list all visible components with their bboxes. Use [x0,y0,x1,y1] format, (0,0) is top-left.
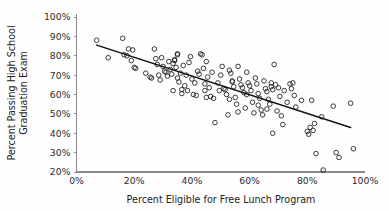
data-point [268,102,273,107]
data-point [159,55,164,60]
trend-line [97,45,351,127]
data-point [129,58,134,63]
data-point [280,122,285,127]
data-point [337,155,342,160]
data-point [278,94,283,99]
data-point [191,92,196,97]
data-point [237,77,242,82]
data-point [270,131,275,136]
data-point [205,75,210,80]
data-point [233,95,238,100]
y-tick-label: 40% [50,128,71,139]
y-tick-label: 30% [50,147,71,158]
data-point [167,59,172,64]
x-tick-label: 0% [69,175,84,186]
data-point [260,113,265,118]
data-point [185,88,190,93]
y-axis-title-line1: Percent Passing High School [6,25,17,160]
data-point [227,97,232,102]
data-point [249,88,254,93]
data-point [255,82,260,87]
data-point [288,82,293,87]
data-point [256,103,261,108]
data-point [311,128,316,133]
data-point [149,76,154,81]
y-axis-title-line2: Graduation Exam [18,51,29,135]
data-point [217,88,222,93]
data-point [210,70,215,75]
data-point [203,82,208,87]
data-point [152,47,157,52]
data-point [218,73,223,78]
y-tick-label: 50% [50,108,71,119]
data-point [130,48,135,53]
y-tick-label: 60% [50,89,71,100]
y-tick-label: 80% [50,50,71,61]
x-tick-label: 60% [239,175,260,186]
data-point [203,88,208,93]
data-point [236,110,241,115]
data-point [192,81,197,86]
y-tick-label: 20% [50,166,71,177]
data-point [351,146,356,151]
data-point [289,86,294,91]
data-point [171,88,176,93]
data-point [156,73,161,78]
data-point [256,91,261,96]
data-point [204,95,209,100]
data-point [275,109,280,114]
data-point [200,52,205,57]
y-tick-label: 100% [44,11,71,22]
data-point [273,83,278,88]
x-tick-label: 40% [182,175,203,186]
data-point [126,47,131,52]
data-point [276,85,281,90]
chart-screenshot: 20%30%40%50%60%70%80%90%100% 0%20%40%60%… [0,0,389,211]
scatter-chart: 20%30%40%50%60%70%80%90%100% 0%20%40%60%… [0,0,389,211]
x-tick-label: 80% [297,175,318,186]
data-point [220,64,225,69]
data-point [169,72,174,77]
data-point [154,56,159,61]
data-point [94,38,99,43]
data-point [252,111,257,116]
data-point [181,63,186,68]
data-point [244,70,249,75]
data-point [236,64,241,69]
data-point [292,93,297,98]
data-point [279,114,284,119]
x-tick-label: 20% [124,175,145,186]
x-tick-label: 100% [352,175,379,186]
x-axis-title: Percent Eligible for Free Lunch Program [127,194,316,205]
data-point [194,93,199,98]
data-point [201,66,206,71]
data-point [334,150,339,155]
data-point [174,65,179,70]
data-point [308,125,313,130]
data-point [299,98,304,103]
data-point [309,98,314,103]
data-point [188,54,193,59]
data-point [331,104,336,109]
y-tick-label: 90% [50,31,71,42]
data-point [158,78,163,83]
data-point [262,79,267,84]
data-point [250,100,255,105]
data-point [312,121,317,126]
data-point [314,151,319,156]
y-tick-label: 70% [50,70,71,81]
data-point [291,81,296,86]
chart-axes [77,14,366,172]
data-point [348,101,353,106]
data-point [224,92,229,97]
data-point [213,120,218,125]
data-point [120,36,125,41]
data-point [223,87,228,92]
data-point [106,55,111,60]
data-point [282,88,287,93]
data-point [143,71,148,76]
data-point [207,85,212,90]
data-point [259,108,264,113]
data-point [204,59,209,64]
x-axis-ticks: 0%20%40%60%80%100% [69,175,378,186]
